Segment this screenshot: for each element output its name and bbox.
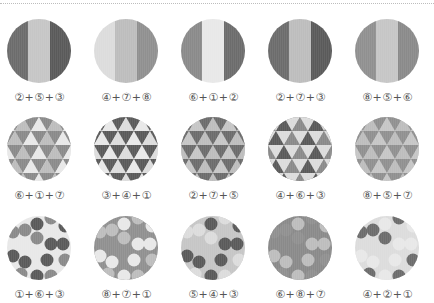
swatch-label: ⑧+⑤+⑥: [344, 91, 431, 104]
swatch-cell: ⑤+④+③: [170, 216, 257, 303]
dotted-swatch: [94, 216, 158, 280]
swatch-cell: ⑥+①+⑦: [0, 117, 83, 215]
striped-swatch: [181, 19, 245, 83]
swatch-label: ⑤+④+③: [170, 288, 257, 301]
striped-swatch: [268, 19, 332, 83]
swatch-cell: ⑧+⑤+⑦: [344, 117, 431, 215]
swatch-label: ③+④+①: [83, 189, 170, 202]
dotted-swatch: [355, 216, 419, 280]
swatch-cell: ⑧+⑦+①: [83, 216, 170, 303]
striped-swatch: [94, 19, 158, 83]
swatch-cell: ⑥+①+②: [170, 19, 257, 117]
swatch-cell: ④+⑥+③: [257, 117, 344, 215]
triangle-swatch: [94, 117, 158, 181]
dotted-swatch: [181, 216, 245, 280]
striped-swatch: [7, 19, 71, 83]
swatch-label: ②+⑦+⑤: [170, 189, 257, 202]
swatch-label: ④+②+①: [344, 288, 431, 301]
swatch-cell: ②+⑦+③: [257, 19, 344, 117]
swatch-label: ①+⑥+③: [0, 288, 83, 301]
swatch-label: ⑥+⑧+⑦: [257, 288, 344, 301]
swatch-label: ②+⑦+③: [257, 91, 344, 104]
triangle-swatch: [7, 117, 71, 181]
swatch-label: ⑧+⑦+①: [83, 288, 170, 301]
swatch-label: ⑥+①+②: [170, 91, 257, 104]
triangle-swatch: [181, 117, 245, 181]
swatch-cell: ④+②+①: [344, 216, 431, 303]
swatch-cell: ⑥+⑧+⑦: [257, 216, 344, 303]
triangle-swatch: [268, 117, 332, 181]
triangle-swatch: [355, 117, 419, 181]
swatch-label: ④+⑥+③: [257, 189, 344, 202]
swatch-label: ⑥+①+⑦: [0, 189, 83, 202]
swatch-cell: ①+⑥+③: [0, 216, 83, 303]
swatch-label: ②+⑤+③: [0, 91, 83, 104]
striped-swatch: [355, 19, 419, 83]
swatch-cell: ⑧+⑤+⑥: [344, 19, 431, 117]
dotted-swatch: [7, 216, 71, 280]
swatch-label: ④+⑦+⑧: [83, 91, 170, 104]
swatch-cell: ②+⑤+③: [0, 19, 83, 117]
swatch-cell: ②+⑦+⑤: [170, 117, 257, 215]
swatch-cell: ④+⑦+⑧: [83, 19, 170, 117]
dotted-swatch: [268, 216, 332, 280]
swatch-cell: ③+④+①: [83, 117, 170, 215]
swatch-label: ⑧+⑤+⑦: [344, 189, 431, 202]
top-dotted-rule: [0, 3, 434, 4]
